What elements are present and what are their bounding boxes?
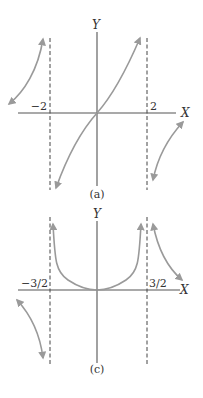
- tick-label-pos: 3/2: [149, 277, 167, 290]
- tick-label-neg: −2: [31, 100, 47, 113]
- curve-branch-left: [9, 39, 43, 104]
- curve-branch-right: [153, 224, 182, 280]
- tick-label-pos: 2: [150, 100, 157, 113]
- figure-canvas: Y X −2 2 (a) Y X −3/2 3/2 (c): [0, 0, 203, 398]
- panel-a: Y X −2 2 (a): [9, 18, 190, 201]
- tick-label-neg: −3/2: [21, 277, 48, 290]
- x-axis-label: X: [180, 106, 190, 120]
- y-axis-label: Y: [92, 18, 101, 32]
- x-axis-label: X: [179, 283, 189, 297]
- panel-c: Y X −3/2 3/2 (c): [17, 207, 189, 376]
- y-axis-label: Y: [93, 207, 102, 221]
- curve-branch-left: [17, 300, 43, 358]
- panel-caption: (a): [89, 188, 104, 201]
- curve-branch-right: [153, 122, 183, 180]
- panel-caption: (c): [90, 363, 105, 376]
